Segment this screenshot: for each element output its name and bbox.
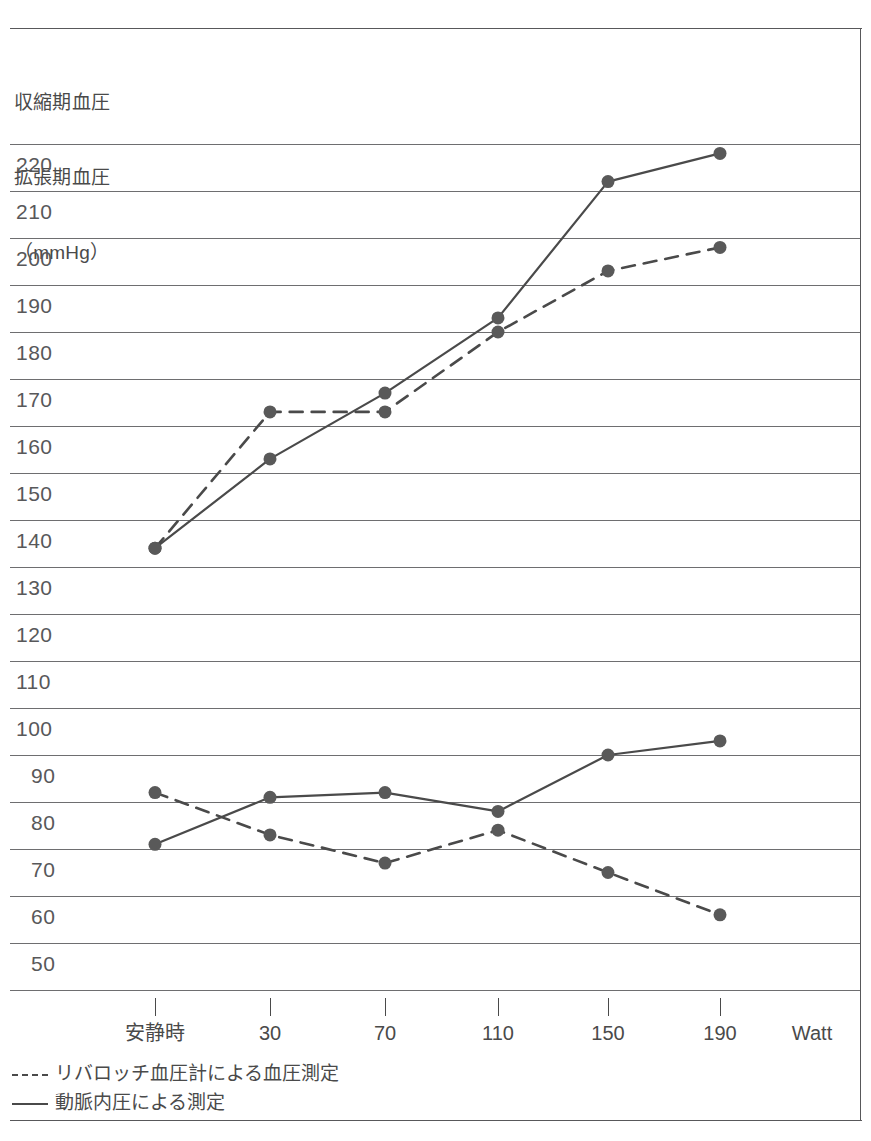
series-line-systolic-dashed bbox=[155, 247, 720, 548]
legend-item-1: 動脈内圧による測定 bbox=[12, 1088, 339, 1117]
data-point-marker bbox=[602, 175, 615, 188]
data-point-marker bbox=[714, 147, 727, 160]
data-point-marker bbox=[149, 786, 162, 799]
data-point-marker bbox=[264, 828, 277, 841]
data-point-marker bbox=[379, 857, 392, 870]
legend-label-0: リバロッチ血圧計による血圧測定 bbox=[55, 1059, 339, 1088]
data-point-marker bbox=[264, 791, 277, 804]
data-point-marker bbox=[714, 908, 727, 921]
data-point-marker bbox=[492, 805, 505, 818]
chart-legend: リバロッチ血圧計による血圧測定 動脈内圧による測定 bbox=[12, 1059, 339, 1117]
data-point-marker bbox=[492, 326, 505, 339]
data-point-marker bbox=[149, 838, 162, 851]
data-point-marker bbox=[602, 749, 615, 762]
legend-label-1: 動脈内圧による測定 bbox=[55, 1088, 225, 1117]
data-point-marker bbox=[149, 542, 162, 555]
data-point-marker bbox=[264, 405, 277, 418]
series-line-systolic-solid bbox=[155, 153, 720, 548]
x-axis-unit-label: Watt bbox=[792, 1022, 832, 1044]
data-point-marker bbox=[264, 452, 277, 465]
data-point-marker bbox=[379, 387, 392, 400]
data-point-marker bbox=[714, 734, 727, 747]
data-point-marker bbox=[492, 311, 505, 324]
data-point-marker bbox=[714, 241, 727, 254]
data-point-marker bbox=[602, 264, 615, 277]
legend-line-solid-icon bbox=[12, 1096, 48, 1110]
data-point-marker bbox=[379, 405, 392, 418]
data-point-marker bbox=[602, 866, 615, 879]
legend-item-0: リバロッチ血圧計による血圧測定 bbox=[12, 1059, 339, 1088]
chart-page: 収縮期血圧 拡張期血圧 （mmHg） 220210200190180170160… bbox=[0, 0, 871, 1141]
series-line-diastolic-solid bbox=[155, 741, 720, 844]
data-point-marker bbox=[379, 786, 392, 799]
plot-area bbox=[0, 0, 871, 1141]
legend-line-dashed-icon bbox=[12, 1067, 48, 1081]
data-point-marker bbox=[492, 824, 505, 837]
series-line-diastolic-dashed bbox=[155, 793, 720, 915]
